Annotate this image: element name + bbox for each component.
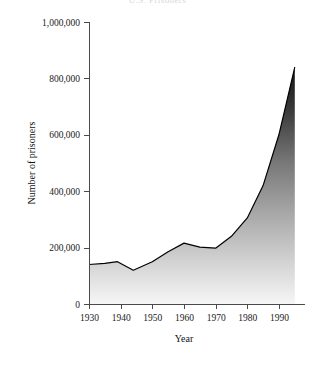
chart-page: U.S. Prisoners bbox=[0, 0, 315, 371]
x-tick-label: 1940 bbox=[112, 313, 131, 323]
x-axis-title: Year bbox=[175, 333, 194, 344]
y-tick-labels: 0 200,000 400,000 600,000 800,000 1,000,… bbox=[42, 18, 80, 310]
area-fill-group bbox=[89, 67, 295, 304]
area-fill bbox=[89, 67, 295, 304]
prisoners-area-chart: 0 200,000 400,000 600,000 800,000 1,000,… bbox=[0, 0, 315, 371]
x-tick-label: 1930 bbox=[80, 313, 99, 323]
y-tick-label: 0 bbox=[75, 300, 80, 310]
y-tick-label: 1,000,000 bbox=[42, 18, 80, 28]
y-tick-label: 400,000 bbox=[49, 187, 80, 197]
x-tick-label: 1970 bbox=[207, 313, 226, 323]
x-tick-label: 1950 bbox=[143, 313, 162, 323]
y-axis-title: Number of prisoners bbox=[26, 122, 37, 205]
x-tick-label: 1980 bbox=[238, 313, 257, 323]
y-tick-label: 600,000 bbox=[49, 130, 80, 140]
y-tick-label: 800,000 bbox=[49, 74, 80, 84]
x-tick-labels: 1930 1940 1950 1960 1970 1980 1990 bbox=[80, 313, 289, 323]
x-tick-label: 1990 bbox=[270, 313, 289, 323]
x-tick-label: 1960 bbox=[175, 313, 194, 323]
y-tick-label: 200,000 bbox=[49, 243, 80, 253]
y-tickmarks bbox=[84, 23, 89, 305]
